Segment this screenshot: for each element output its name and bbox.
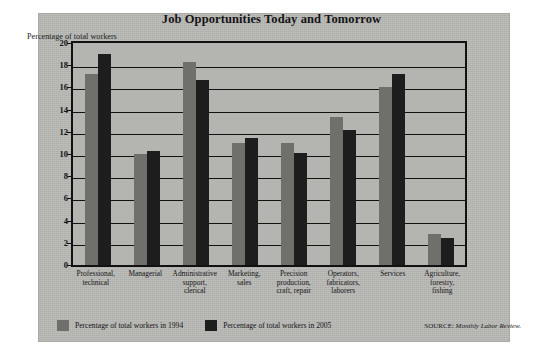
source-note: SOURCE: Monthly Labor Review. [424,322,521,330]
legend-label: Percentage of total workers in 1994 [75,321,183,330]
bar-group [269,43,318,265]
chart-legend: Percentage of total workers in 1994Perce… [57,320,353,331]
x-axis-category-label: Marketing,sales [220,270,270,296]
chart-title: Job Opportunities Today and Tomorrow [0,12,543,27]
bar [98,54,111,265]
x-axis-category-label: Managerial [121,270,171,296]
x-axis-label-line: Services [369,270,417,279]
bar-group [416,43,465,265]
bar [183,62,196,265]
bar-group [122,43,171,265]
bar [134,154,147,265]
plot-area [71,41,467,267]
source-prefix: SOURCE: [424,322,454,330]
bar [379,87,392,265]
x-axis-category-label: Services [368,270,418,296]
bar [85,74,98,265]
bar [245,138,258,265]
bar [196,80,209,265]
figure-page: Job Opportunities Today and Tomorrow Per… [0,0,543,357]
source-name: Monthly Labor Review. [456,322,521,330]
bar [294,153,307,265]
bar-group [73,43,122,265]
x-axis-category-label: Administrativesupport,clerical [170,270,220,296]
x-axis-category-labels: Professional,technicalManagerialAdminist… [71,270,467,296]
x-axis-category-label: Operators,fabricators,laborers [319,270,369,296]
x-axis-label-line: fishing [419,287,467,296]
legend-swatch [205,320,217,331]
x-axis-label-line: Managerial [122,270,170,279]
bar-group [318,43,367,265]
legend-swatch [57,320,69,331]
x-axis-label-line: craft, repair [270,287,318,296]
bar [330,117,343,265]
bar-group [220,43,269,265]
x-axis-label-line: clerical [171,287,219,296]
bar [281,143,294,265]
legend-item: Percentage of total workers in 1994 [57,320,183,331]
bar-group [367,43,416,265]
x-axis-category-label: Precisionproduction,craft, repair [269,270,319,296]
y-axis-note: Percentage of total workers [27,32,117,41]
bar-group [171,43,220,265]
x-axis-label-line: sales [221,279,269,288]
bar [392,74,405,265]
x-axis-label-line: technical [72,279,120,288]
bar-groups [73,43,465,265]
x-axis-category-label: Agriculture,forestry,fishing [418,270,468,296]
x-axis-category-label: Professional,technical [71,270,121,296]
legend-label: Percentage of total workers in 2005 [223,321,331,330]
bar [428,234,441,265]
bar [147,151,160,265]
bar [441,238,454,265]
legend-item: Percentage of total workers in 2005 [205,320,331,331]
bar [343,130,356,265]
y-axis-tick-labels: 02468101214161820 [48,41,68,267]
x-axis-label-line: laborers [320,287,368,296]
bar [232,143,245,265]
